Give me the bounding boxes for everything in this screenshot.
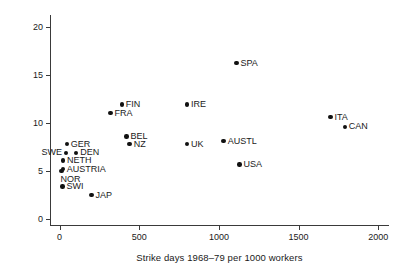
data-point-marker (60, 184, 64, 188)
x-axis-title: Strike days 1968–79 per 1000 workers (50, 252, 389, 263)
y-tick-mark (46, 75, 50, 76)
data-point-label: USA (244, 160, 263, 169)
data-point-marker (237, 162, 241, 166)
y-tick-label: 20 (33, 22, 43, 31)
plot-area: 05101520 SWINORAUSTRIANETHSWEDENGERJAPFR… (50, 17, 391, 225)
x-tick-label: 1000 (209, 233, 229, 242)
data-point-marker (127, 142, 131, 146)
y-tick-label: 5 (38, 167, 43, 176)
data-point-label: IRE (191, 100, 206, 109)
data-point-marker (343, 125, 347, 129)
data-point-label: SWE (41, 148, 62, 157)
x-tick-mark (299, 226, 300, 230)
data-point-label: AUSTL (228, 137, 257, 146)
data-point-marker (185, 102, 189, 106)
x-tick-mark (378, 226, 379, 230)
data-point-label: CAN (349, 122, 368, 131)
y-tick-label: 0 (38, 215, 43, 224)
data-point-marker (234, 61, 238, 65)
y-tick-mark (46, 171, 50, 172)
x-tick-mark (60, 226, 61, 230)
data-point-label: FRA (115, 109, 133, 118)
data-point-label: DEN (80, 148, 99, 157)
x-tick-label: 0 (57, 233, 62, 242)
x-axis-ticks: 0500100015002000 (50, 226, 389, 246)
x-tick-label: 500 (132, 233, 147, 242)
chart-screenshot: 05101520 SWINORAUSTRIANETHSWEDENGERJAPFR… (0, 0, 394, 277)
data-point-marker (124, 134, 128, 138)
data-point-label: JAP (95, 191, 112, 200)
y-tick-mark (46, 219, 50, 220)
data-point-marker (61, 158, 65, 162)
data-point-label: GER (71, 140, 91, 149)
data-point-label: NZ (134, 140, 146, 149)
data-point-label: UK (191, 140, 204, 149)
data-point-marker (89, 193, 93, 197)
data-point-label: FIN (126, 100, 141, 109)
data-point-marker (108, 111, 112, 115)
data-point-label: SPA (240, 59, 257, 68)
data-point-marker (65, 142, 69, 146)
data-point-label: NOR (60, 175, 80, 184)
data-point-marker (64, 151, 68, 155)
y-tick-label: 10 (33, 118, 43, 127)
data-point-label: NETH (67, 156, 92, 165)
data-point-marker (120, 102, 124, 106)
data-point-label: ITA (334, 113, 347, 122)
y-tick-mark (46, 27, 50, 28)
data-point-marker (185, 142, 189, 146)
data-point-label: AUSTRIA (67, 165, 106, 174)
data-point-marker (328, 115, 332, 119)
x-tick-label: 1500 (289, 233, 309, 242)
x-tick-mark (139, 226, 140, 230)
y-tick-label: 15 (33, 70, 43, 79)
data-point-marker (61, 167, 65, 171)
x-tick-label: 2000 (368, 233, 388, 242)
y-tick-mark (46, 123, 50, 124)
x-tick-mark (219, 226, 220, 230)
data-point-marker (221, 139, 225, 143)
